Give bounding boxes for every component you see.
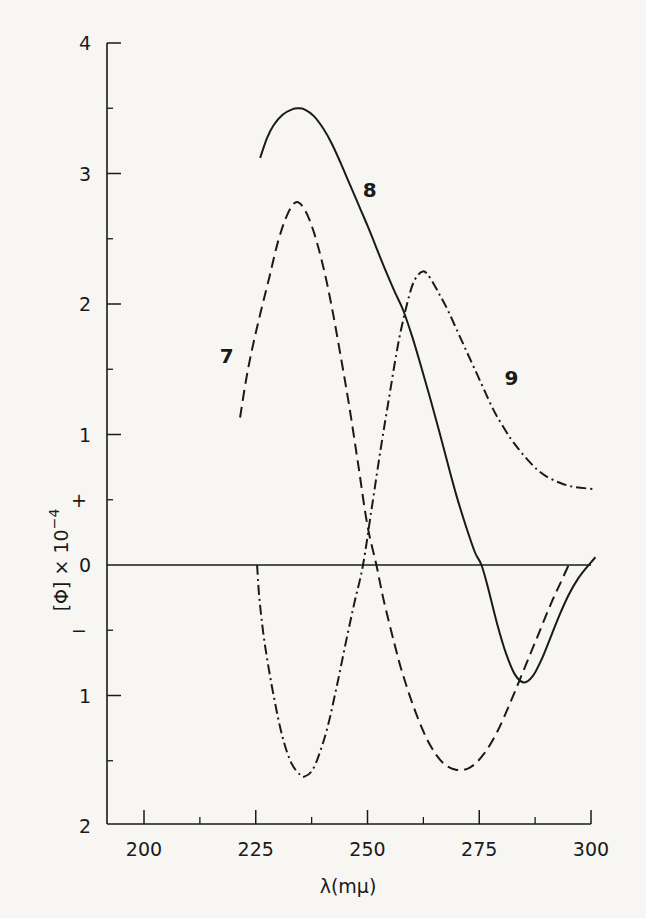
y-tick-label: 2 (79, 815, 91, 837)
y-negative-sign: − (71, 619, 87, 641)
y-axis-title-main: [Φ] × 10 (50, 529, 72, 611)
tick-labels: 4321012+−200225250275300 (71, 32, 609, 860)
x-tick-label: 300 (573, 838, 609, 860)
y-tick-label: 3 (79, 163, 91, 185)
x-tick-label: 275 (461, 838, 497, 860)
y-tick-label: 4 (79, 32, 91, 54)
x-axis-title: λ(mμ) (320, 875, 377, 897)
axes (107, 43, 591, 824)
svg-text:[Φ] × 10−4: [Φ] × 10−4 (46, 509, 72, 612)
curve-8 (260, 108, 595, 682)
curve-label-7: 7 (220, 344, 234, 368)
y-axis-title-exponent: −4 (46, 509, 62, 530)
tick-marks (107, 43, 591, 824)
y-axis-title: [Φ] × 10−4 (46, 509, 72, 612)
curve-label-8: 8 (363, 178, 377, 202)
y-tick-label: 1 (79, 424, 91, 446)
x-tick-label: 225 (238, 838, 274, 860)
curves (240, 108, 595, 777)
x-tick-label: 250 (349, 838, 385, 860)
curve-label-9: 9 (504, 366, 518, 390)
x-tick-label: 200 (126, 838, 162, 860)
y-tick-label: 0 (79, 554, 91, 576)
curve-labels: 789 (220, 178, 519, 390)
y-positive-sign: + (71, 489, 87, 511)
y-tick-label: 2 (79, 293, 91, 315)
curve-7 (240, 202, 568, 770)
y-tick-label: 1 (79, 685, 91, 707)
cd-spectrum-chart: 4321012+−200225250275300 789 λ(mμ) [Φ] ×… (0, 0, 646, 918)
curve-9 (257, 271, 595, 777)
